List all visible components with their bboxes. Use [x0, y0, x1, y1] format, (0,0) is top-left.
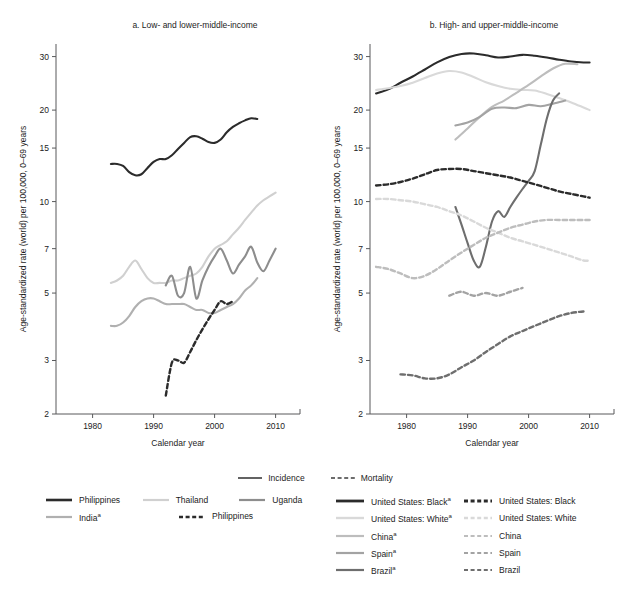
- legend-item-label: Brazil: [499, 566, 520, 575]
- y-tick-label: 2: [44, 409, 49, 419]
- legend-item-mortality-brazil[interactable]: Brazil: [464, 566, 520, 575]
- y-tick-label: 15: [354, 143, 364, 153]
- legend-item-mortality-united-states-white[interactable]: United States: White: [464, 514, 576, 523]
- series-line: [376, 71, 589, 110]
- y-tick-label: 20: [354, 105, 364, 115]
- y-tick-label: 15: [40, 143, 50, 153]
- footnote-marker: a: [97, 512, 100, 518]
- footnote-marker: a: [448, 496, 451, 502]
- legend-item-philippines[interactable]: Philippines: [46, 496, 125, 505]
- legend-swatch: [46, 513, 72, 521]
- series-line: [111, 193, 276, 284]
- y-tick-label: 5: [44, 288, 49, 298]
- legend-swatch: [331, 474, 355, 482]
- legend-measure: IncidenceMortality: [0, 474, 631, 483]
- x-tick-label: 2000: [205, 421, 224, 431]
- chart-panel-a: 2357101520301980199020002010Calendar yea…: [0, 36, 318, 476]
- x-tick-label: 2000: [519, 421, 538, 431]
- legend-swatch: [239, 496, 265, 504]
- series-line: [401, 311, 584, 378]
- legend-item-label: Chinaa: [371, 531, 397, 541]
- legend-item-mortality-united-states-black[interactable]: United States: Black: [464, 497, 576, 506]
- legend-item-label: Indiaa: [79, 512, 101, 522]
- legend-item-label: China: [499, 532, 521, 541]
- panel-b-title: b. High- and upper-middle-income: [358, 20, 630, 30]
- legend-item-incidence-china[interactable]: Chinaa: [336, 531, 464, 541]
- x-tick-label: 1990: [144, 421, 163, 431]
- legend-swatch: [464, 514, 492, 522]
- y-tick-label: 10: [40, 197, 50, 207]
- legend-item-incidence-spain[interactable]: Spaina: [336, 548, 464, 558]
- legend-swatch: [464, 497, 492, 505]
- legend-item-label: United States: Black: [499, 497, 576, 506]
- legend-swatch: [464, 566, 492, 574]
- footnote-marker: a: [392, 565, 395, 571]
- legend-row: United States: BlackaUnited States: Blac…: [336, 496, 631, 506]
- chart-b-svg: 2357101520301980199020002010Calendar yea…: [318, 36, 631, 476]
- legend-row: ChinaaChina: [336, 531, 631, 541]
- y-tick-label: 30: [354, 52, 364, 62]
- legend-row: IndiaaPhilippines: [46, 512, 318, 522]
- legend-item-label: Philippines: [79, 496, 120, 505]
- y-tick-label: 5: [358, 288, 363, 298]
- chart-a-svg: 2357101520301980199020002010Calendar yea…: [0, 36, 318, 476]
- x-tick-label: 1980: [83, 421, 102, 431]
- x-tick-label: 1980: [397, 421, 416, 431]
- y-axis-title: Age-standardized rate (world) per 100,00…: [18, 126, 28, 332]
- x-tick-label: 2010: [580, 421, 599, 431]
- series-line: [449, 288, 522, 296]
- footnote-marker: a: [393, 531, 396, 537]
- legend-item-mortality[interactable]: Mortality: [331, 474, 393, 483]
- legend-row: United States: WhiteaUnited States: Whit…: [336, 513, 631, 523]
- legend-swatch: [464, 532, 492, 540]
- legend-row: PhilippinesThailandUganda: [46, 496, 318, 505]
- legend-swatch: [336, 497, 364, 505]
- legend-item-thailand[interactable]: Thailand: [143, 496, 222, 505]
- series-line: [376, 169, 589, 198]
- legend-item-mortality-china[interactable]: China: [464, 532, 521, 541]
- legend-item-india[interactable]: Indiaa: [46, 512, 161, 522]
- legend-swatch: [46, 496, 72, 504]
- legend-swatch: [464, 549, 492, 557]
- x-tick-label: 2010: [266, 421, 285, 431]
- legend-panel-b: United States: BlackaUnited States: Blac…: [318, 496, 631, 583]
- legend-item-label: United States: Blacka: [371, 496, 451, 506]
- legend-item-mortality-spain[interactable]: Spain: [464, 549, 521, 558]
- legend-item-philippines[interactable]: Philippines: [179, 512, 294, 521]
- series-line: [166, 247, 276, 299]
- footnote-marker: a: [393, 548, 396, 554]
- legend-swatch: [238, 474, 262, 482]
- y-tick-label: 3: [358, 355, 363, 365]
- legend-row: BrazilaBrazil: [336, 565, 631, 575]
- x-axis-title: Calendar year: [151, 438, 205, 448]
- legend-item-incidence[interactable]: Incidence: [238, 474, 304, 483]
- legend-item-label: Spaina: [371, 548, 396, 558]
- legend-item-label: Brazila: [371, 565, 396, 575]
- y-tick-label: 30: [40, 52, 50, 62]
- x-tick-label: 1990: [458, 421, 477, 431]
- x-axis-title: Calendar year: [465, 438, 519, 448]
- legend-item-incidence-brazil[interactable]: Brazila: [336, 565, 464, 575]
- legend-swatch: [336, 514, 364, 522]
- legend-countries: PhilippinesThailandUgandaIndiaaPhilippin…: [0, 496, 631, 583]
- y-tick-label: 7: [358, 244, 363, 254]
- y-axis-title: Age-standardized rate (world) per 100,00…: [332, 126, 342, 332]
- legend-item-incidence-united-states-white[interactable]: United States: Whitea: [336, 513, 464, 523]
- legend-item-label: Incidence: [268, 474, 304, 483]
- y-tick-label: 10: [354, 197, 364, 207]
- series-line: [376, 53, 589, 93]
- legend-swatch: [336, 549, 364, 557]
- legend-item-uganda[interactable]: Uganda: [239, 496, 318, 505]
- y-tick-label: 7: [44, 244, 49, 254]
- legend-item-label: United States: White: [499, 514, 576, 523]
- legend-swatch: [336, 532, 364, 540]
- legend-row: SpainaSpain: [336, 548, 631, 558]
- legend-item-label: Spain: [499, 549, 521, 558]
- legend-item-incidence-united-states-black[interactable]: United States: Blacka: [336, 496, 464, 506]
- panel-a-title: a. Low- and lower-middle-income: [60, 20, 330, 30]
- legend-item-label: Uganda: [272, 496, 302, 505]
- legend-item-label: Philippines: [212, 512, 253, 521]
- legend-item-label: Thailand: [176, 496, 209, 505]
- y-tick-label: 20: [40, 105, 50, 115]
- series-line: [166, 301, 233, 395]
